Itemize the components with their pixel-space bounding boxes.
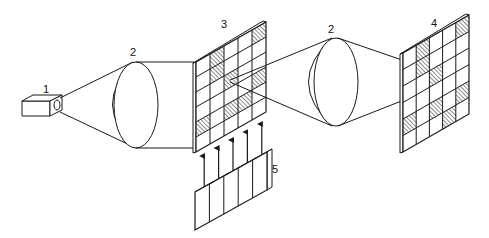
label-mask: 3 bbox=[221, 19, 227, 30]
label-screen: 4 bbox=[431, 18, 437, 29]
light-source bbox=[22, 95, 62, 116]
label-source: 1 bbox=[43, 84, 49, 95]
label-lens-2: 2 bbox=[328, 24, 334, 35]
optical-diagram bbox=[0, 0, 489, 238]
lens-1 bbox=[112, 62, 158, 148]
label-lens-1: 2 bbox=[130, 47, 136, 58]
label-control-block: 5 bbox=[272, 164, 278, 175]
grid-screen-4 bbox=[400, 14, 469, 153]
diagram-canvas: 1 2 3 2 4 5 bbox=[0, 0, 489, 238]
grid-mask-3 bbox=[193, 21, 266, 153]
lens-2 bbox=[309, 38, 359, 126]
